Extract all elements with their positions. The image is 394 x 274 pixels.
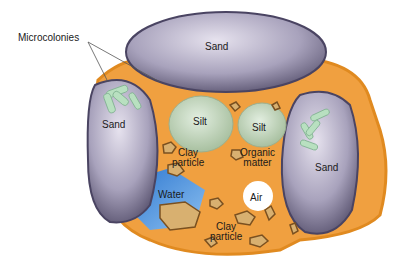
label-air: Air (250, 193, 262, 203)
label-clay-particle-2: Clay particle (210, 222, 242, 242)
label-clay-particle-1: Clay particle (172, 148, 204, 168)
label-microcolonies: Microcolonies (18, 33, 79, 43)
label-silt-1: Silt (193, 117, 207, 127)
label-sand-top: Sand (205, 42, 228, 52)
label-sand-left: Sand (102, 120, 125, 130)
label-organic-matter: Organic matter (240, 148, 275, 168)
label-sand-right: Sand (315, 163, 338, 173)
label-water: Water (158, 190, 184, 200)
label-silt-2: Silt (252, 123, 266, 133)
